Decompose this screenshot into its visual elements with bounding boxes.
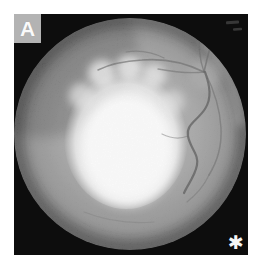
fundus-photograph: A ✱ — [14, 14, 248, 255]
panel-label-text: A — [20, 18, 35, 39]
figure-canvas: A ✱ — [0, 0, 260, 267]
asterisk-marker-icon: ✱ — [226, 232, 246, 252]
retina-image — [14, 14, 248, 255]
panel-label: A — [14, 14, 41, 43]
